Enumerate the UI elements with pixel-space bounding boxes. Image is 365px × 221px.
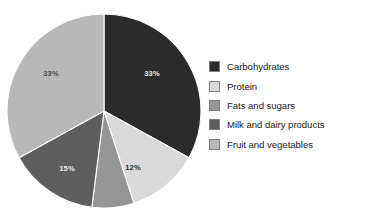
legend-item[interactable]: Fats and sugars: [209, 96, 365, 115]
pie-slice-value-label: 12%: [125, 163, 141, 172]
legend-swatch-icon: [209, 100, 220, 111]
legend-item[interactable]: Carbohydrates: [209, 57, 365, 76]
pie-slice-value-label: 33%: [43, 69, 59, 78]
legend-item-label: Fruit and vegetables: [227, 139, 313, 150]
legend-swatch-icon: [209, 119, 220, 130]
legend-item-label: Milk and dairy products: [227, 119, 325, 130]
legend-swatch-icon: [209, 61, 220, 72]
legend-swatch-icon: [209, 139, 220, 150]
pie-slice-value-label: 33%: [144, 69, 160, 78]
chart-legend: CarbohydratesProteinFats and sugarsMilk …: [209, 57, 365, 154]
legend-swatch-icon: [209, 81, 220, 92]
legend-item[interactable]: Milk and dairy products: [209, 115, 365, 134]
pie-slice-group: [7, 14, 201, 208]
legend-item-label: Carbohydrates: [227, 61, 289, 72]
pie-chart-plot-area: 33%12%15%33%: [0, 0, 210, 221]
pie-chart-figure: 33%12%15%33% CarbohydratesProteinFats an…: [0, 0, 365, 221]
legend-item-label: Protein: [227, 81, 257, 92]
legend-item[interactable]: Protein: [209, 76, 365, 95]
legend-item[interactable]: Fruit and vegetables: [209, 135, 365, 154]
pie-slice-value-label: 15%: [59, 164, 75, 173]
pie-chart-svg: 33%12%15%33%: [0, 0, 210, 221]
legend-item-label: Fats and sugars: [227, 100, 295, 111]
